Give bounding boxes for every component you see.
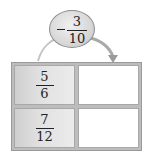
operation-denominator: 10	[69, 32, 86, 45]
input-fraction-1: 5 6	[15, 70, 74, 100]
input-output-table: 5 6 7 12	[11, 62, 142, 151]
operation-numerator: 3	[73, 15, 81, 28]
input-cell-1: 5 6	[14, 65, 75, 105]
input-denominator-1: 6	[40, 87, 48, 100]
output-cell-2[interactable]	[78, 108, 139, 148]
operation-oval: 3 10	[49, 10, 95, 48]
input-numerator-2: 7	[40, 113, 48, 126]
minus-sign	[57, 29, 65, 30]
output-cell-1[interactable]	[78, 65, 139, 105]
operation-fraction: 3 10	[67, 15, 87, 45]
input-denominator-2: 12	[36, 130, 53, 143]
input-cell-2: 7 12	[14, 108, 75, 148]
input-numerator-1: 5	[40, 70, 48, 83]
input-fraction-2: 7 12	[15, 113, 74, 143]
